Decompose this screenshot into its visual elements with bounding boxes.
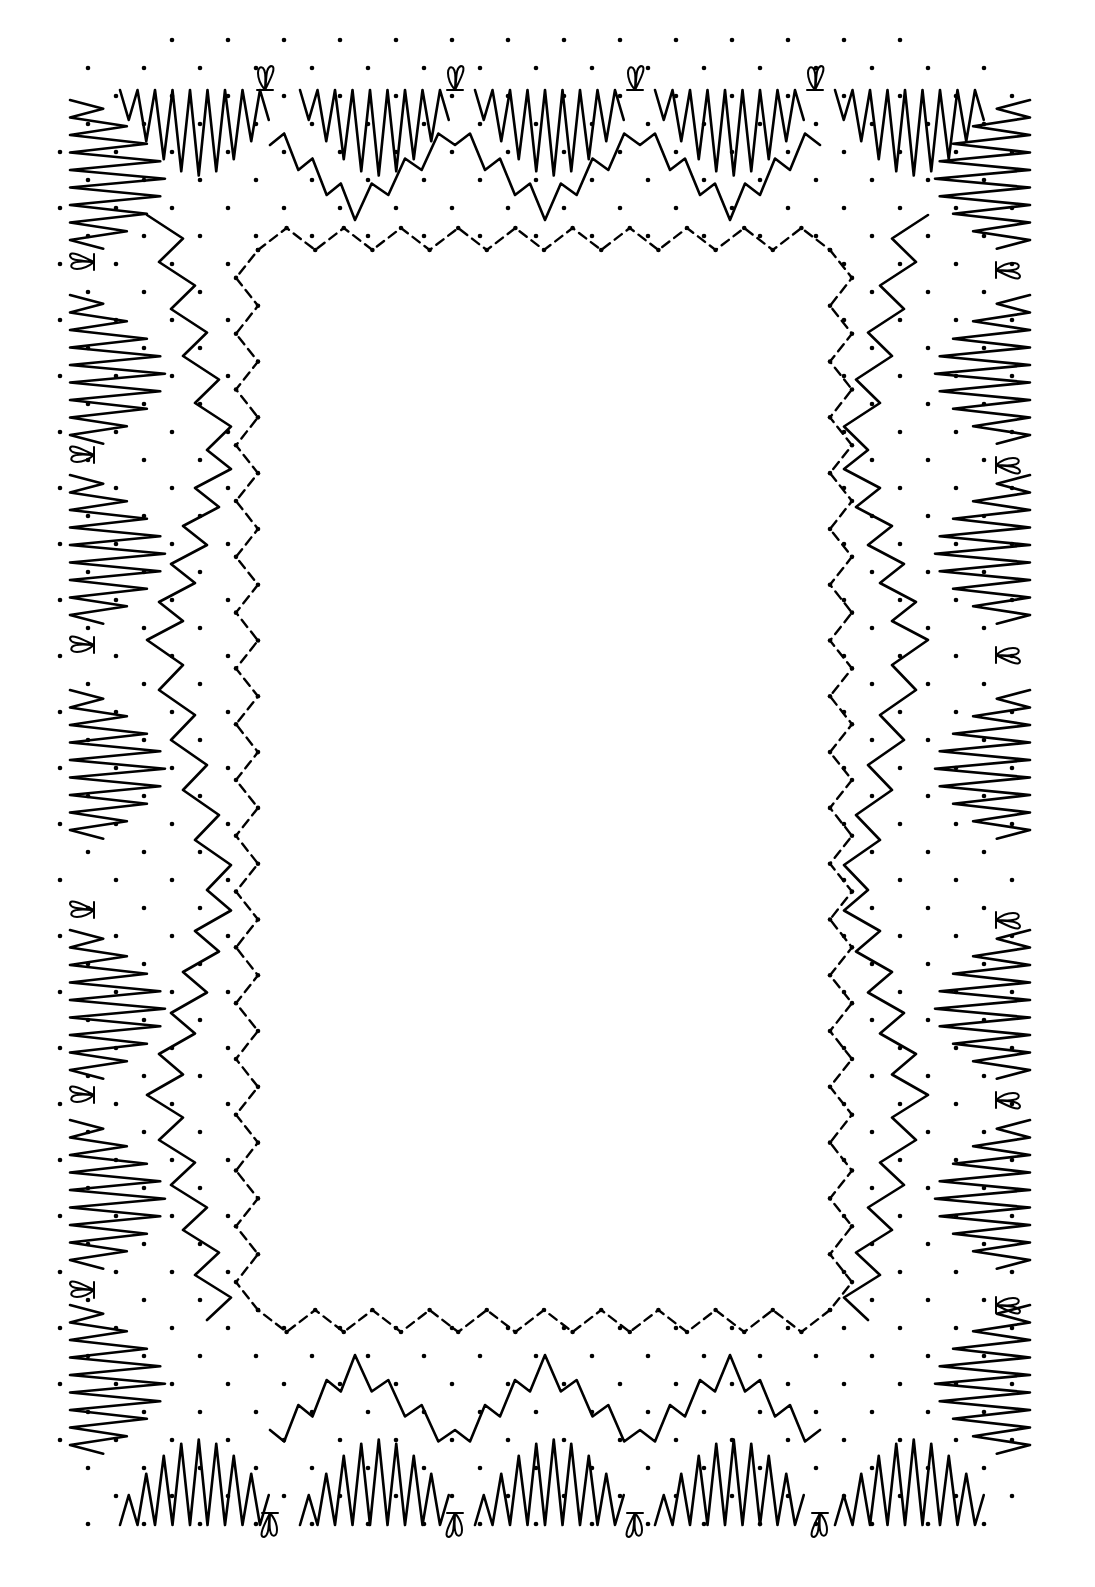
tally-icon: [257, 66, 273, 90]
outer-fan-edge: [70, 90, 1030, 1525]
tally-icon: [70, 447, 94, 463]
tally-icon: [70, 637, 94, 653]
tally-icon: [447, 66, 463, 90]
tally-icon: [996, 912, 1020, 928]
tally-icon: [627, 1513, 643, 1537]
inner-dashed-zigzag-frame: [234, 226, 855, 1335]
lace-pricking-drawing: [0, 0, 1095, 1587]
tally-icon: [70, 902, 94, 918]
zigzag-bands: [147, 134, 928, 1442]
tally-icon: [70, 1282, 94, 1298]
tally-icon: [70, 1087, 94, 1103]
tally-icon: [812, 1513, 828, 1537]
blank-center-window: [258, 250, 830, 1310]
tally-icon: [70, 254, 94, 270]
tally-icon: [996, 647, 1020, 663]
tally-icon: [447, 1513, 463, 1537]
tally-icon: [996, 1092, 1020, 1108]
tally-icon: [996, 262, 1020, 278]
tally-icon: [996, 457, 1020, 473]
pin-dot-grid: [58, 38, 1015, 1527]
tally-icon: [262, 1513, 278, 1537]
tally-icon: [996, 1297, 1020, 1313]
tally-icon: [627, 66, 643, 90]
